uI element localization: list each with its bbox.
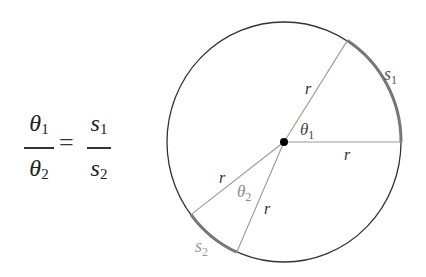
label-s2: s2	[195, 236, 208, 259]
label-r-upper: r	[305, 80, 312, 97]
circle-diagram: r θ1 r s1 r θ2 r s2	[0, 0, 426, 277]
label-r-left: r	[219, 169, 226, 186]
arc-s1	[347, 41, 401, 142]
label-r-lower: r	[264, 200, 271, 217]
center-point	[280, 138, 288, 146]
label-r-horizontal: r	[344, 146, 351, 163]
label-s1: s1	[384, 64, 397, 87]
radius-upper	[284, 41, 347, 142]
label-theta2: θ2	[237, 182, 251, 204]
label-theta1: θ1	[300, 120, 314, 142]
